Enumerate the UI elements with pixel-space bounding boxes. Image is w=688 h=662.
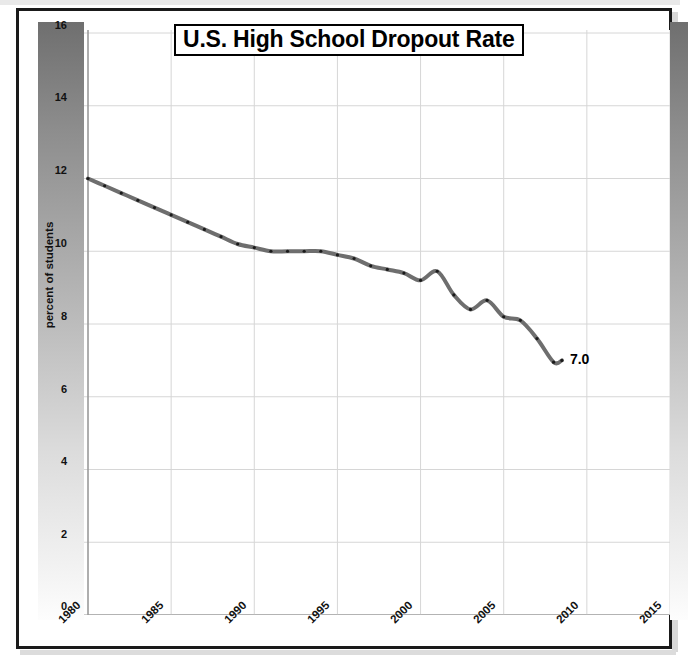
page-shadow-bottom (20, 650, 676, 655)
data-point-marker (103, 184, 106, 187)
page-top-edge (0, 0, 680, 5)
y-axis-title: percent of students (43, 215, 55, 335)
dropout-rate-line (88, 179, 562, 364)
data-series-dropout-rate (84, 30, 670, 615)
data-point-marker (86, 177, 89, 180)
endpoint-value-label: 7.0 (570, 351, 589, 367)
y-tick-6: 6 (33, 383, 67, 395)
data-point-marker (469, 308, 472, 311)
data-point-marker (203, 228, 206, 231)
data-point-marker (336, 253, 339, 256)
data-point-marker (153, 206, 156, 209)
data-point-marker (369, 264, 372, 267)
chart-outer-frame: 16 14 12 10 8 6 4 2 0 percent of student… (16, 8, 672, 649)
data-point-marker (419, 279, 422, 282)
data-point-marker (519, 319, 522, 322)
data-point-marker (502, 315, 505, 318)
data-point-marker (352, 257, 355, 260)
data-point-marker (219, 235, 222, 238)
y-tick-2: 2 (33, 528, 67, 540)
data-point-marker (319, 250, 322, 253)
data-point-marker (303, 250, 306, 253)
data-point-marker (436, 270, 439, 273)
data-point-marker (253, 246, 256, 249)
data-point-marker (236, 242, 239, 245)
data-point-marker (186, 221, 189, 224)
data-point-marker (485, 299, 488, 302)
data-point-marker (136, 199, 139, 202)
chart-title: U.S. High School Dropout Rate (174, 24, 524, 56)
data-point-marker (535, 337, 538, 340)
y-tick-12: 12 (33, 164, 67, 176)
plot-area (84, 30, 670, 615)
data-point-marker (560, 359, 563, 362)
data-point-marker (170, 213, 173, 216)
data-point-marker (452, 293, 455, 296)
data-point-marker (402, 271, 405, 274)
y-tick-16: 16 (33, 19, 67, 31)
y-tick-4: 4 (33, 455, 67, 467)
y-tick-14: 14 (33, 91, 67, 103)
data-point-marker (386, 268, 389, 271)
data-point-marker (286, 250, 289, 253)
right-gradient-panel (670, 22, 688, 620)
data-point-marker (120, 191, 123, 194)
data-point-marker (552, 361, 555, 364)
data-point-marker (269, 250, 272, 253)
